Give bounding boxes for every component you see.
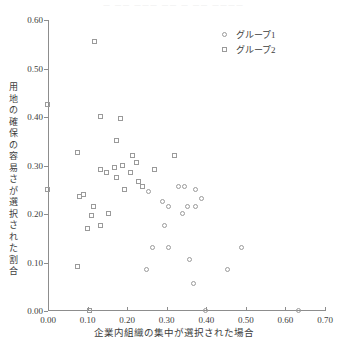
data-point-g1 [166, 245, 171, 250]
data-point-g2 [98, 223, 103, 228]
x-tick-label: 0.00 [40, 315, 56, 325]
data-point-g2 [152, 167, 157, 172]
data-point-g2 [114, 175, 119, 180]
circle-marker-icon [222, 32, 227, 37]
data-point-g2 [87, 308, 92, 313]
data-point-g2 [91, 204, 96, 209]
y-tick-mark [44, 166, 48, 167]
data-point-g1 [193, 187, 198, 192]
y-tick-mark [44, 69, 48, 70]
x-tick-mark [127, 307, 128, 311]
data-point-g1 [239, 245, 244, 250]
data-point-g2 [85, 226, 90, 231]
data-point-g1 [203, 308, 208, 313]
data-point-g2 [122, 187, 127, 192]
x-tick-label: 0.30 [159, 315, 175, 325]
x-tick-label: 0.40 [198, 315, 214, 325]
data-point-g2 [104, 170, 109, 175]
data-point-g1 [180, 211, 185, 216]
data-point-g1 [199, 196, 204, 201]
data-point-g2 [140, 184, 145, 189]
data-point-g1 [296, 308, 301, 313]
data-point-g2 [130, 153, 135, 158]
data-point-g1 [160, 199, 165, 204]
x-tick-mark [285, 307, 286, 311]
data-point-g2 [75, 264, 80, 269]
x-tick-mark [167, 307, 168, 311]
x-tick-mark [48, 307, 49, 311]
square-marker-icon [222, 47, 227, 52]
y-axis-title: 用地の確保の容易さが選択された割合 [6, 82, 20, 278]
y-tick-mark [44, 263, 48, 264]
legend-item-label: グループ2 [236, 43, 276, 56]
y-tick-mark [44, 311, 48, 312]
data-point-g2 [98, 167, 103, 172]
y-tick-label: 0.10 [27, 258, 43, 268]
x-tick-label: 0.20 [119, 315, 135, 325]
legend-item: グループ1 [222, 27, 276, 42]
y-tick-label: 0.50 [27, 64, 43, 74]
legend-item: グループ2 [222, 42, 276, 57]
data-point-g2 [134, 160, 139, 165]
data-point-g1 [225, 267, 230, 272]
data-point-g1 [144, 267, 149, 272]
data-point-g1 [185, 204, 190, 209]
y-tick-label: 0.30 [27, 161, 43, 171]
x-tick-label: 0.60 [278, 315, 294, 325]
y-axis-line [48, 20, 49, 311]
legend: グループ1グループ2 [222, 27, 276, 57]
data-point-g1 [146, 189, 151, 194]
data-point-g1 [187, 257, 192, 262]
data-point-g2 [45, 187, 50, 192]
legend-item-label: グループ1 [236, 28, 276, 41]
x-tick-label: 0.70 [317, 315, 333, 325]
data-point-g2 [106, 211, 111, 216]
data-point-g1 [182, 184, 187, 189]
scatter-plot-figure: — —— ——— —— — —— ———— 用地の確保の容易さが選択された割合 … [0, 0, 348, 342]
data-point-g2 [98, 114, 103, 119]
data-point-g1 [162, 223, 167, 228]
data-point-g1 [166, 204, 171, 209]
y-tick-mark [44, 117, 48, 118]
data-point-g2 [128, 170, 133, 175]
data-point-g2 [45, 102, 50, 107]
data-point-g2 [81, 192, 86, 197]
y-tick-mark [44, 214, 48, 215]
data-point-g2 [75, 150, 80, 155]
x-tick-mark [246, 307, 247, 311]
data-point-g1 [150, 245, 155, 250]
data-point-g2 [92, 39, 97, 44]
data-point-g2 [112, 165, 117, 170]
data-point-g1 [176, 184, 181, 189]
y-tick-label: 0.40 [27, 112, 43, 122]
data-point-g1 [193, 204, 198, 209]
data-point-g2 [120, 163, 125, 168]
data-point-g2 [89, 213, 94, 218]
page-bleed-text: — —— ——— —— — —— ———— [0, 0, 348, 10]
x-tick-label: 0.10 [80, 315, 96, 325]
plot-area: 0.000.100.200.300.400.500.60 0.000.100.2… [48, 20, 325, 311]
data-point-g1 [191, 281, 196, 286]
data-point-g2 [172, 153, 177, 158]
data-point-g2 [114, 138, 119, 143]
x-axis-title: 企業内組織の集中が選択された場合 [0, 325, 348, 339]
x-tick-label: 0.50 [238, 315, 254, 325]
x-tick-mark [325, 307, 326, 311]
y-tick-mark [44, 20, 48, 21]
y-tick-label: 0.20 [27, 209, 43, 219]
y-tick-label: 0.60 [27, 15, 43, 25]
data-point-g2 [136, 179, 141, 184]
data-point-g2 [118, 116, 123, 121]
